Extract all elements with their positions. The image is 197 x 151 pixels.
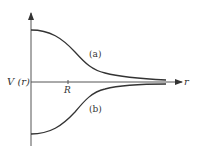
tick-label-r: R: [63, 85, 71, 95]
curve-b-label: (b): [89, 104, 102, 114]
y-axis-label: V (r): [7, 76, 30, 87]
x-axis-label: r: [184, 76, 190, 87]
curve-a-label: (a): [89, 49, 101, 59]
potential-diagram: V (r) r R (a) (b): [0, 0, 197, 151]
